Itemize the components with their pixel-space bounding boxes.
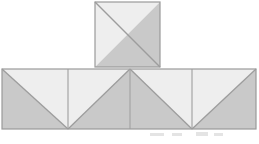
net-diagram	[0, 0, 259, 144]
scan-smudge-2	[172, 133, 182, 136]
figure-root	[0, 0, 259, 144]
scan-smudge-1	[150, 133, 164, 136]
top-square	[95, 2, 160, 67]
bottom-strip	[2, 69, 256, 129]
scan-smudge-3	[196, 132, 208, 136]
scan-smudge-4	[214, 133, 223, 136]
strip-square-4	[192, 69, 256, 129]
strip-square-1	[2, 69, 68, 129]
strip-square-3	[130, 69, 192, 129]
strip-square-2	[68, 69, 130, 129]
